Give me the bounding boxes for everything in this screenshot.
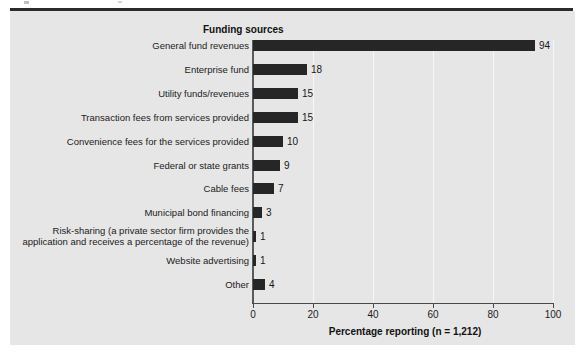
figure-container: Funding sources Percentage reporting (n … <box>0 0 586 358</box>
category-label: Convenience fees for the services provid… <box>67 136 249 147</box>
x-tick-label-100: 100 <box>545 309 562 320</box>
x-tick-label-40: 40 <box>367 309 378 320</box>
bar <box>253 183 274 194</box>
x-tick-label-60: 60 <box>427 309 438 320</box>
gridline-100 <box>553 40 554 303</box>
x-tick-label-20: 20 <box>307 309 318 320</box>
category-label: Other <box>225 279 249 290</box>
x-tick-80 <box>493 303 494 308</box>
bar-value-label: 3 <box>266 207 272 218</box>
bar <box>253 279 265 290</box>
x-tick-0 <box>253 303 254 308</box>
x-tick-20 <box>313 303 314 308</box>
bar-value-label: 15 <box>302 88 313 99</box>
category-label: Risk-sharing (a private sector firm prov… <box>11 225 249 247</box>
category-label: Municipal bond financing <box>144 207 249 218</box>
bar <box>253 136 283 147</box>
gridline-40 <box>373 40 374 303</box>
value-axis-line <box>252 303 554 304</box>
category-label: Enterprise fund <box>185 64 249 75</box>
category-label: Cable fees <box>204 183 249 194</box>
bar-value-label: 4 <box>269 279 275 290</box>
x-tick-60 <box>433 303 434 308</box>
gridline-60 <box>433 40 434 303</box>
category-label: Website advertising <box>166 255 249 266</box>
bar-value-label: 1 <box>260 231 266 242</box>
category-label: General fund revenues <box>152 40 249 51</box>
gridline-80 <box>493 40 494 303</box>
bar <box>253 112 298 123</box>
bar-value-label: 94 <box>539 40 550 51</box>
gridline-20 <box>313 40 314 303</box>
x-axis-title: Percentage reporting (n = 1,212) <box>0 326 586 337</box>
bar-value-label: 15 <box>302 112 313 123</box>
bar <box>253 255 256 266</box>
bar-value-label: 7 <box>278 183 284 194</box>
bar <box>253 160 280 171</box>
column-header-funding-sources: Funding sources <box>203 24 284 35</box>
top-crop-artifact <box>118 1 122 3</box>
bar-value-label: 9 <box>284 160 290 171</box>
bar <box>253 88 298 99</box>
top-crop-artifact <box>24 1 29 4</box>
category-label: Utility funds/revenues <box>158 88 249 99</box>
bar-value-label: 10 <box>287 136 298 147</box>
bar <box>253 231 256 242</box>
bar-value-label: 1 <box>260 255 266 266</box>
bar-value-label: 18 <box>311 64 322 75</box>
x-tick-100 <box>553 303 554 308</box>
bar <box>253 207 262 218</box>
plot-area <box>253 40 553 303</box>
x-tick-40 <box>373 303 374 308</box>
bar <box>253 40 535 51</box>
category-label: Transaction fees from services provided <box>81 112 249 123</box>
category-label: Federal or state grants <box>153 160 249 171</box>
bar <box>253 64 307 75</box>
x-tick-label-80: 80 <box>487 309 498 320</box>
x-axis-title-text: Percentage reporting (n = 1,212) <box>329 326 482 337</box>
x-tick-label-0: 0 <box>250 309 256 320</box>
